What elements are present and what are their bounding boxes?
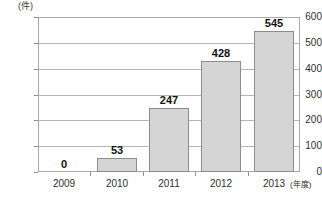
y-axis-tick-mark	[34, 120, 38, 121]
x-axis-unit-label: (年度)	[290, 179, 311, 190]
y-axis-unit-label: (件)	[18, 1, 33, 11]
y-axis-tick-mark	[34, 172, 38, 173]
bar-value-label: 53	[87, 144, 147, 156]
y-axis-tick-mark	[34, 146, 38, 147]
y-axis-tick-mark	[34, 43, 38, 44]
x-axis-tick-mark	[90, 172, 91, 176]
bar	[149, 108, 189, 172]
bar-value-label: 0	[34, 158, 94, 170]
bar-value-label: 247	[139, 94, 199, 106]
x-axis-tick-mark	[143, 172, 144, 176]
x-axis-tick-mark	[195, 172, 196, 176]
x-axis-tick-label: 2010	[87, 178, 147, 189]
x-axis-tick-label: 2011	[139, 178, 199, 189]
bar-value-label: 428	[191, 47, 251, 59]
bar-chart: (件) 6005004003002001000 053247428545 200…	[0, 0, 322, 203]
y-axis-tick-mark	[34, 69, 38, 70]
bar	[254, 31, 294, 172]
bar	[97, 158, 137, 172]
y-axis-tick-mark	[34, 95, 38, 96]
x-axis-tick-label: 2009	[34, 178, 94, 189]
x-axis-tick-mark	[248, 172, 249, 176]
bar	[201, 61, 241, 172]
bar-value-label: 545	[244, 17, 304, 29]
x-axis-tick-label: 2012	[191, 178, 251, 189]
y-axis-tick-mark	[34, 17, 38, 18]
